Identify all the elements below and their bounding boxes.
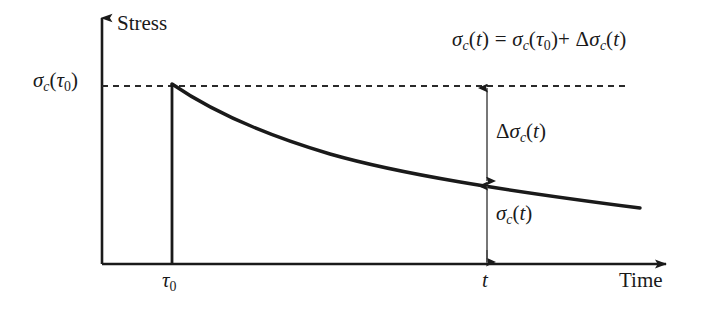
y-axis-value-label-sigma-c-tau0: σc(τ0) [33, 70, 78, 94]
x-axis-tick-label-tau0: τ0 [162, 270, 176, 294]
paren-close: ) [619, 27, 626, 51]
sigma-glyph: σ [33, 68, 43, 92]
delta-glyph: Δ [576, 27, 590, 51]
tau-glyph: τ [162, 268, 170, 292]
paren-close: ) [525, 201, 532, 225]
equals-glyph: = [495, 27, 507, 51]
stress-relaxation-figure: Stress Time σc(τ0) τ0 t Δσc(t) σc(t) σc(… [0, 0, 706, 320]
paren-open: ( [50, 68, 57, 92]
delta-glyph: Δ [496, 119, 510, 143]
subscript-zero: 0 [170, 279, 177, 294]
paren-close: ) [71, 68, 78, 92]
paren-close: ) [539, 119, 546, 143]
sigma-glyph: σ [452, 27, 463, 51]
tau-glyph: τ [57, 68, 65, 92]
sigma-glyph: σ [512, 27, 523, 51]
tau-glyph: τ [536, 27, 544, 51]
paren-open: ( [529, 27, 536, 51]
sigma-glyph: σ [496, 201, 506, 225]
sigma-glyph: σ [589, 27, 600, 51]
stress-relaxation-curve [172, 84, 640, 208]
annotation-sigma-c-t: σc(t) [496, 203, 532, 227]
subscript-zero: 0 [544, 38, 551, 53]
x-axis-title: Time [619, 270, 663, 291]
paren-open: ( [513, 201, 520, 225]
annotation-delta-sigma-c-t: Δσc(t) [496, 121, 546, 145]
plus-glyph: + [558, 27, 570, 51]
subscript-zero: 0 [64, 79, 71, 94]
sigma-glyph: σ [510, 119, 520, 143]
x-axis-tick-label-t: t [482, 270, 488, 291]
paren-open: ( [469, 27, 476, 51]
equation-annotation: σc(t) = σc(τ0)+ Δσc(t) [452, 29, 627, 53]
y-axis-title: Stress [117, 13, 167, 34]
paren-open: ( [526, 119, 533, 143]
